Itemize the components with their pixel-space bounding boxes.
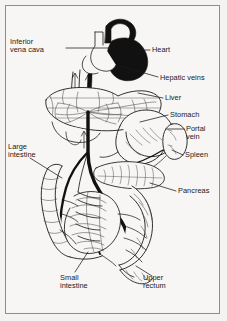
label-hepatic-veins: Hepatic veins bbox=[160, 74, 205, 82]
leader-small-intestine bbox=[75, 252, 88, 272]
pancreas-structure bbox=[94, 162, 165, 189]
label-inferior-vena-cava: Inferior vena cava bbox=[10, 38, 44, 55]
label-large-intestine: Large intestine bbox=[8, 143, 36, 160]
figure-canvas: Inferior vena cava Heart Hepatic veins L… bbox=[0, 0, 227, 321]
label-stomach: Stomach bbox=[170, 111, 199, 119]
label-liver: Liver bbox=[165, 94, 181, 102]
label-heart: Heart bbox=[152, 46, 170, 54]
label-upper-rectum: Upper rectum bbox=[143, 274, 166, 291]
label-small-intestine: Small intestine bbox=[60, 274, 88, 291]
label-portal-vein: Portal vein bbox=[186, 125, 205, 142]
label-spleen: Spleen bbox=[185, 151, 208, 159]
label-pancreas: Pancreas bbox=[178, 187, 209, 195]
